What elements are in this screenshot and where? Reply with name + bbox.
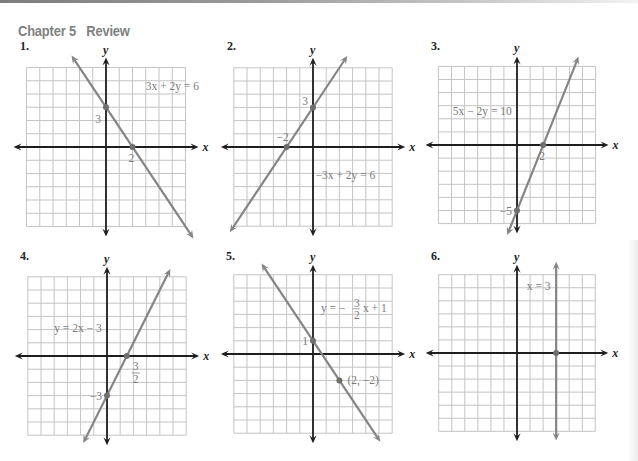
point-label: 1 — [302, 335, 308, 347]
point-marker — [104, 393, 110, 399]
problem-number: 3. — [431, 39, 440, 53]
graphs-container: 1.xy323x + 2y = 62.xy−23−3x + 2y = 63.xy… — [0, 0, 638, 461]
point-label: (2, −2) — [347, 374, 379, 387]
line-path — [232, 59, 345, 229]
point-marker — [540, 142, 546, 148]
x-axis-label: x — [408, 347, 415, 361]
y-axis-label: y — [308, 250, 316, 264]
graph-4: 4.xy32−3y = 2x − 3 — [15, 249, 209, 445]
point-label: 3 — [302, 95, 308, 107]
point-label: −5 — [500, 205, 512, 217]
y-axis-label: y — [308, 43, 316, 57]
point-marker — [553, 350, 559, 356]
graph-5: 5.xy1(2, −2)y = −32x + 1 — [221, 249, 415, 443]
problem-number: 1. — [20, 39, 29, 53]
problem-number: 4. — [20, 249, 29, 263]
point-marker — [514, 208, 520, 214]
point-marker — [310, 104, 316, 110]
equation-fraction-denominator: 2 — [354, 309, 360, 321]
point-marker — [103, 104, 109, 110]
point-label: −2 — [277, 131, 289, 143]
equation-label: 5x − 2y = 10 — [453, 105, 512, 118]
x-axis-label: x — [612, 138, 619, 152]
problem-number: 2. — [227, 39, 236, 53]
point-label: 2 — [129, 152, 135, 164]
graph-2: 2.xy−23−3x + 2y = 6 — [221, 39, 415, 236]
x-axis-label: x — [611, 346, 618, 360]
equation-part: x + 1 — [363, 302, 387, 314]
x-axis-label: x — [202, 349, 209, 363]
fraction-label: 32 — [132, 360, 140, 385]
problem-number: 5. — [226, 249, 235, 263]
axes: xy — [426, 250, 619, 442]
equation-fraction-numerator: 3 — [354, 297, 360, 309]
y-axis-label: y — [101, 43, 109, 57]
equation-part: y = − — [321, 302, 345, 315]
x-axis-label: x — [202, 140, 209, 154]
x-axis-label: x — [408, 140, 415, 154]
problem-number: 6. — [431, 249, 440, 263]
point-marker — [130, 144, 136, 150]
point-marker — [124, 353, 130, 359]
point-label: −3 — [90, 390, 102, 402]
axes: xy — [425, 41, 618, 233]
graph-6: 6.xyx = 3 — [426, 249, 619, 441]
graph-line — [262, 264, 381, 442]
fraction-denominator: 2 — [133, 373, 139, 385]
y-axis-label: y — [512, 41, 520, 55]
equation-label: x = 3 — [527, 280, 551, 292]
point-label: 2 — [539, 150, 545, 162]
y-axis-label: y — [102, 252, 110, 266]
graph-1: 1.xy323x + 2y = 6 — [14, 39, 209, 238]
equation-label: y = 2x − 3 — [54, 322, 102, 335]
equation-label: y = − — [321, 302, 345, 315]
fraction-numerator: 3 — [133, 360, 139, 372]
point-label: 3 — [95, 113, 101, 125]
y-axis-label: y — [512, 250, 520, 264]
line-path — [264, 267, 378, 439]
axes: xy — [221, 43, 415, 236]
axes: xy — [15, 252, 209, 445]
point-marker — [284, 144, 290, 150]
point-marker — [336, 377, 342, 383]
equation-label: −3x + 2y = 6 — [316, 169, 376, 182]
graph-3: 3.xy2−55x − 2y = 10 — [425, 39, 618, 235]
equation-label: 3x + 2y = 6 — [146, 80, 199, 93]
point-marker — [310, 338, 316, 344]
axes: xy — [14, 43, 209, 237]
